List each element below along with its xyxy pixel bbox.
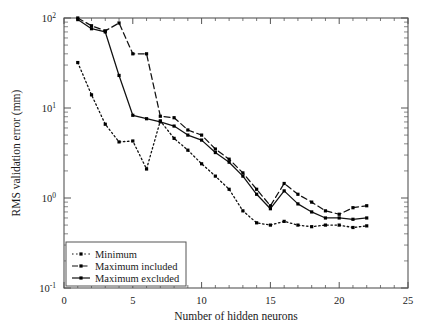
- data-point: [228, 161, 231, 164]
- data-point: [255, 193, 258, 196]
- data-point: [365, 224, 368, 227]
- data-point: [159, 120, 162, 123]
- data-point: [324, 216, 327, 219]
- data-point: [338, 216, 341, 219]
- data-point: [228, 188, 231, 191]
- data-point: [296, 223, 299, 226]
- data-point: [351, 206, 354, 209]
- x-tick-label: 25: [403, 295, 414, 306]
- y-axis-label: RMS validation error (mm): [10, 89, 23, 216]
- data-point: [145, 117, 148, 120]
- data-point: [90, 27, 93, 30]
- data-point: [104, 123, 107, 126]
- data-point: [269, 207, 272, 210]
- data-point: [159, 115, 162, 118]
- data-point: [255, 188, 258, 191]
- data-point: [310, 210, 313, 213]
- data-point: [186, 149, 189, 152]
- data-point: [186, 128, 189, 131]
- data-point: [241, 171, 244, 174]
- chart-figure: 051015202510-1100101102 Number of hidden…: [0, 0, 426, 335]
- data-point: [117, 74, 120, 77]
- data-point: [365, 216, 368, 219]
- data-point: [131, 52, 134, 55]
- data-point: [117, 140, 120, 143]
- legend-label: Maximum excluded: [95, 273, 180, 284]
- legend-marker: [79, 264, 82, 267]
- data-point: [269, 223, 272, 226]
- data-point: [214, 147, 217, 150]
- data-point: [145, 167, 148, 170]
- data-point: [324, 223, 327, 226]
- data-point: [324, 209, 327, 212]
- legend-marker: [79, 252, 82, 255]
- data-point: [365, 204, 368, 207]
- data-point: [200, 138, 203, 141]
- data-point: [117, 21, 120, 24]
- data-point: [76, 18, 79, 21]
- x-axis-label: Number of hidden neurons: [174, 310, 298, 322]
- data-point: [214, 175, 217, 178]
- data-point: [131, 114, 134, 117]
- data-point: [310, 201, 313, 204]
- y-tick-exponent: -1: [50, 281, 56, 290]
- data-point: [310, 225, 313, 228]
- data-point: [172, 137, 175, 140]
- y-tick-exponent: 1: [52, 101, 56, 110]
- data-point: [283, 220, 286, 223]
- chart-legend: MinimumMaximum includedMaximum excluded: [66, 242, 186, 286]
- x-tick-label: 0: [61, 295, 66, 306]
- data-point: [172, 116, 175, 119]
- data-point: [104, 30, 107, 33]
- x-tick-label: 5: [130, 295, 135, 306]
- data-point: [172, 124, 175, 127]
- data-point: [283, 182, 286, 185]
- data-point: [186, 133, 189, 136]
- data-point: [338, 213, 341, 216]
- data-point: [145, 52, 148, 55]
- data-point: [241, 209, 244, 212]
- data-point: [214, 151, 217, 154]
- x-tick-label: 10: [196, 295, 207, 306]
- data-point: [200, 162, 203, 165]
- data-point: [241, 175, 244, 178]
- data-point: [90, 93, 93, 96]
- data-point: [351, 218, 354, 221]
- legend-label: Maximum included: [95, 261, 178, 272]
- data-point: [228, 158, 231, 161]
- data-point: [131, 139, 134, 142]
- x-tick-label: 20: [334, 295, 345, 306]
- legend-marker: [79, 276, 82, 279]
- data-point: [338, 223, 341, 226]
- data-point: [255, 221, 258, 224]
- data-point: [90, 24, 93, 27]
- data-point: [76, 61, 79, 64]
- data-point: [296, 193, 299, 196]
- legend-label: Minimum: [95, 249, 137, 260]
- y-tick-exponent: 2: [52, 11, 56, 20]
- rms-validation-error-chart: 051015202510-1100101102 Number of hidden…: [0, 0, 426, 335]
- data-point: [296, 202, 299, 205]
- y-tick-exponent: 0: [52, 191, 56, 200]
- data-point: [283, 189, 286, 192]
- data-point: [351, 226, 354, 229]
- data-point: [200, 133, 203, 136]
- x-tick-label: 15: [265, 295, 276, 306]
